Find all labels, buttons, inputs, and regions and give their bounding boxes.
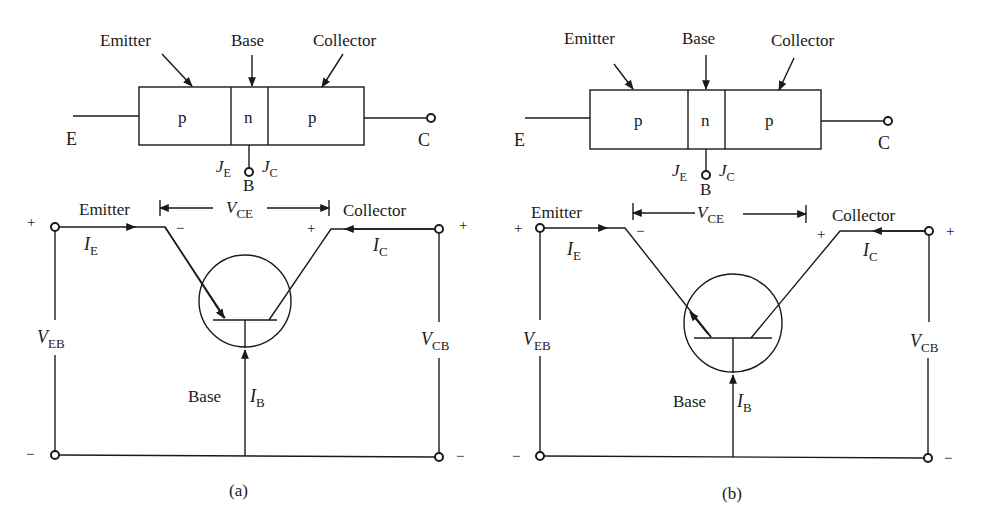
labels-a: Emitter Base Collector p n p E C B JE JC… <box>26 31 467 500</box>
circuit-collector-label: Collector <box>832 206 896 225</box>
vcb-label: VCB <box>910 331 939 355</box>
collector-plus: + <box>817 226 825 242</box>
collector-plus: + <box>307 220 315 236</box>
circuit-b <box>536 203 933 462</box>
junction-jc: JC <box>262 157 278 180</box>
transistor-figure: Emitter Base Collector p n p E C B JE JC… <box>0 0 981 526</box>
circuit-base-label: Base <box>188 387 221 406</box>
terminal-e: E <box>514 130 525 150</box>
base-label: Base <box>231 31 264 50</box>
terminal-c: C <box>418 130 430 150</box>
junction-je: JE <box>216 157 231 180</box>
terminal-b: B <box>700 180 711 199</box>
region-p-collector: p <box>308 108 317 127</box>
junction-je: JE <box>672 161 687 184</box>
vce-label: VCE <box>697 203 724 226</box>
junction-jc: JC <box>719 161 735 184</box>
ic-label: IC <box>372 235 388 259</box>
region-n-base: n <box>244 108 253 127</box>
region-n-base: n <box>701 111 710 130</box>
veb-plus: + <box>514 220 522 236</box>
circuit-a <box>51 200 443 461</box>
collector-label: Collector <box>771 31 835 50</box>
ib-label: IB <box>736 391 752 415</box>
terminal-c: C <box>878 133 890 153</box>
region-p-emitter: p <box>178 108 187 127</box>
pnp-structure-a <box>73 54 435 176</box>
vcb-minus: − <box>944 450 952 466</box>
base-label: Base <box>682 29 715 48</box>
ic-label: IC <box>862 240 878 264</box>
vcb-plus: + <box>459 217 467 233</box>
veb-minus: − <box>26 446 34 462</box>
circuit-base-label: Base <box>673 392 706 411</box>
emitter-label: Emitter <box>100 31 151 50</box>
ie-label: IE <box>566 239 581 263</box>
region-p-emitter: p <box>634 111 643 130</box>
vcb-plus: + <box>946 223 954 239</box>
emitter-minus: − <box>636 223 644 239</box>
terminal-b: B <box>243 176 254 195</box>
veb-label: VEB <box>37 327 65 351</box>
vcb-label: VCB <box>421 329 450 353</box>
region-p-collector: p <box>765 111 774 130</box>
circuit-collector-label: Collector <box>343 201 407 220</box>
circuit-emitter-label: Emitter <box>531 203 582 222</box>
caption-a: (a) <box>229 481 248 500</box>
veb-plus: + <box>27 214 35 230</box>
ie-label: IE <box>83 234 98 258</box>
vce-label: VCE <box>226 198 253 221</box>
terminal-e: E <box>66 129 77 149</box>
vcb-minus: − <box>456 448 464 464</box>
emitter-label: Emitter <box>564 29 615 48</box>
emitter-minus: − <box>176 220 184 236</box>
caption-b: (b) <box>722 484 742 503</box>
circuit-emitter-label: Emitter <box>79 200 130 219</box>
collector-label: Collector <box>313 31 377 50</box>
ib-label: IB <box>249 386 265 410</box>
veb-label: VEB <box>523 329 551 353</box>
veb-minus: − <box>512 448 520 464</box>
